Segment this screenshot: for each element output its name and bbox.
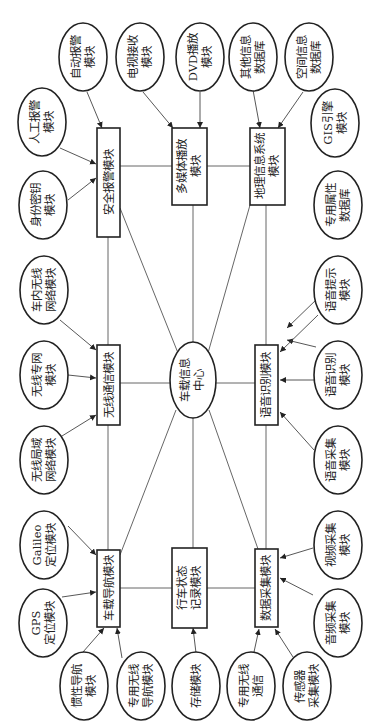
module-label-line2: 记录模块 [189, 565, 203, 610]
submodule-tv-receive[interactable]: 电视接收 模块 [116, 23, 164, 91]
label-line1: Galileo [30, 525, 44, 566]
label-line2: 通信 [251, 675, 265, 697]
label-line1: 惯性导航 [70, 663, 84, 708]
label-line2: 模块 [338, 278, 352, 301]
label-line1: GPS [29, 610, 43, 635]
submodule-voice-capture[interactable]: 语音采集 模块 [314, 426, 362, 494]
label-line2: 模块 [44, 363, 58, 386]
label-line2: 定位模块 [44, 522, 58, 567]
label-line1: 语音提示 [324, 268, 338, 312]
module-label: 无线通信模块 [102, 351, 116, 418]
label-line2: 模块 [43, 193, 57, 216]
submodule-inertial-nav[interactable]: 惯性导航 模块 [60, 652, 108, 720]
label-line2: 模块 [338, 363, 352, 386]
label-line1: 人工报警 [28, 99, 42, 144]
label-line1: 存储模块 [189, 663, 203, 708]
submodule-auto-alarm[interactable]: 自动报警 模块 [59, 23, 107, 91]
system-architecture-diagram: 安全报警模块 多媒体播放 模块 地理信息系统 模块 无线通信模块 语音识别模块 … [0, 0, 379, 723]
label-line2: 采集模块 [307, 663, 321, 708]
label-line2: 网络模块 [44, 437, 58, 482]
label-line1: 其他信息 [239, 35, 253, 79]
label-line2: 模块 [338, 611, 352, 634]
label-line1: 自动报警 [69, 34, 83, 79]
label-line1: 语音识别 [324, 353, 338, 397]
module-security-alarm[interactable]: 安全报警模块 [97, 128, 120, 237]
module-label-line1: 多媒体播放 [175, 138, 189, 194]
module-label-line2: 模块 [267, 154, 281, 177]
submodule-dedicated-wireless-nav[interactable]: 专用无线 导航模块 [117, 652, 165, 720]
submodule-wireless-private[interactable]: 无线专网 模块 [20, 341, 68, 409]
module-label-line1: 地理信息系统 [253, 132, 267, 199]
label-line2: 模块 [338, 448, 352, 471]
label-line2: 数据库 [253, 41, 267, 74]
label-line1: 语音采集 [324, 437, 338, 482]
label-line2: 网络模块 [44, 267, 58, 312]
label-line1: 身份密钥 [29, 183, 43, 227]
label-line2: 导航模块 [141, 663, 155, 708]
label-line1: DVD播放 [186, 32, 200, 82]
label-line2: 模块 [140, 45, 154, 68]
label-line2: 模块 [42, 110, 56, 133]
label-line2: 模块 [200, 45, 214, 68]
submodule-gps[interactable]: GPS 定位模块 [19, 589, 67, 657]
submodule-special-attr-db[interactable]: 专用属性 数据库 [314, 171, 362, 239]
submodule-spatial-info-db[interactable]: 空间信息 数据库 [285, 23, 333, 91]
module-navigation[interactable]: 车载导航模块 [97, 550, 120, 627]
submodule-storage[interactable]: 存储模块 [172, 652, 220, 720]
submodule-voice-prompt[interactable]: 语音提示 模块 [314, 256, 362, 324]
label-line1: 传感器 [293, 669, 307, 703]
label-line1: 音频采集 [324, 600, 338, 645]
submodule-gis-engine[interactable]: GIS引擎 模块 [311, 89, 359, 157]
submodule-voice-recognition[interactable]: 语音识别 模块 [314, 341, 362, 409]
module-label: 语音识别模块 [259, 351, 273, 418]
label-line1: 空间信息 [295, 35, 309, 79]
label-line1: 电视接收 [126, 34, 140, 79]
module-label: 安全报警模块 [102, 148, 116, 215]
module-gis[interactable]: 地理信息系统 模块 [250, 128, 285, 205]
submodule-dvd-play[interactable]: DVD播放 模块 [176, 23, 224, 91]
label-line1: 车内无线 [30, 267, 44, 312]
module-multimedia[interactable]: 多媒体播放 模块 [172, 128, 207, 205]
label-line1: 无线专网 [30, 353, 44, 397]
label-line1: 无线局域 [30, 437, 44, 482]
module-wireless-comm[interactable]: 无线通信模块 [97, 345, 120, 425]
submodule-sensor-capture[interactable]: 传感器 采集模块 [283, 652, 331, 720]
label-line1: 专用无线 [237, 663, 251, 708]
submodule-wlan[interactable]: 无线局域 网络模块 [20, 426, 68, 494]
module-label: 数据采集模块 [259, 554, 273, 621]
submodule-manual-alarm[interactable]: 人工报警 模块 [18, 88, 66, 156]
submodule-in-car-wireless[interactable]: 车内无线 网络模块 [20, 256, 68, 324]
module-speech-recognition[interactable]: 语音识别模块 [255, 345, 278, 425]
center-node[interactable]: 车载信息 中心 [170, 342, 216, 418]
module-label-line1: 行车状态 [175, 565, 189, 610]
label-line2: 数据库 [338, 189, 352, 222]
submodule-identity-key[interactable]: 身份密钥 模块 [19, 171, 67, 239]
submodule-dedicated-wireless-comm[interactable]: 专用无线 通信 [227, 652, 275, 720]
label-line2: 模块 [338, 533, 352, 556]
module-driving-record[interactable]: 行车状态 记录模块 [172, 548, 207, 628]
submodule-audio-capture[interactable]: 音频采集 模块 [314, 589, 362, 657]
label-line2: 定位模块 [43, 600, 57, 645]
label-line2: 数据库 [309, 41, 323, 74]
submodule-other-info-db[interactable]: 其他信息 数据库 [229, 23, 277, 91]
module-data-acquisition[interactable]: 数据采集模块 [255, 549, 278, 627]
center-label-line2: 中心 [192, 368, 206, 391]
label-line1: GIS引擎 [321, 100, 335, 145]
label-line1: 视频采集 [324, 522, 338, 567]
module-label: 车载导航模块 [102, 554, 116, 621]
label-line1: 专用属性 [324, 183, 338, 227]
submodule-galileo[interactable]: Galileo 定位模块 [20, 511, 68, 579]
label-line2: 模块 [83, 45, 97, 68]
module-label-line2: 模块 [189, 154, 203, 177]
submodule-video-capture[interactable]: 视频采集 模块 [314, 511, 362, 579]
label-line1: 专用无线 [127, 663, 141, 708]
label-line2: 模块 [335, 111, 349, 134]
label-line2: 模块 [84, 674, 98, 697]
center-label-line1: 车载信息 [178, 358, 192, 402]
